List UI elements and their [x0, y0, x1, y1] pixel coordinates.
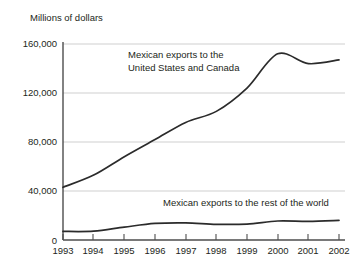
x-axis-labels: 1993 1994 1995 1996 1997 1998 1999 2000 … — [52, 245, 349, 256]
x-label-2002: 2002 — [328, 245, 349, 256]
x-label-1999: 1999 — [236, 245, 257, 256]
x-label-1994: 1994 — [82, 245, 103, 256]
y-axis-labels: 160,000 120,000 80,000 40,000 0 — [23, 38, 57, 246]
series-line-us-canada — [63, 53, 339, 187]
x-label-1998: 1998 — [205, 245, 226, 256]
x-label-2001: 2001 — [297, 245, 318, 256]
x-label-1993: 1993 — [52, 245, 73, 256]
y-label-80000: 80,000 — [28, 136, 57, 147]
x-label-2000: 2000 — [267, 245, 288, 256]
annotation-us-canada-line1: Mexican exports to the — [128, 49, 224, 60]
x-label-1995: 1995 — [113, 245, 134, 256]
annotation-us-canada-line2: United States and Canada — [128, 62, 240, 73]
y-label-40000: 40,000 — [28, 185, 57, 196]
x-label-1997: 1997 — [175, 245, 196, 256]
y-label-120000: 120,000 — [23, 87, 57, 98]
chart-plot-area: 160,000 120,000 80,000 40,000 0 1993 199… — [0, 0, 363, 274]
x-label-1996: 1996 — [144, 245, 165, 256]
series-line-rest-of-world — [63, 220, 339, 231]
chart-container: Millions of dollars 160,000 — [0, 0, 363, 274]
y-label-160000: 160,000 — [23, 38, 57, 49]
annotation-rest-of-world: Mexican exports to the rest of the world — [163, 197, 329, 208]
x-axis-tickmarks — [63, 234, 339, 240]
